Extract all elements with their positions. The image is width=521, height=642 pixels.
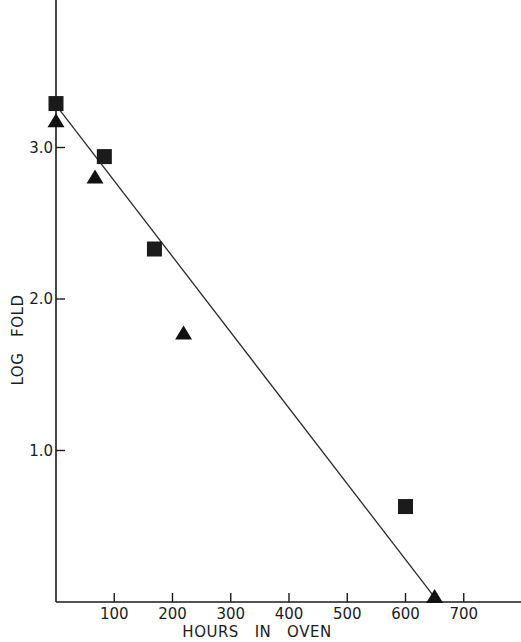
square-marker: [147, 242, 162, 257]
square-marker: [97, 149, 112, 164]
x-tick-label: 200: [158, 605, 187, 623]
square-marker: [49, 96, 64, 111]
triangle-marker: [87, 169, 104, 183]
x-tick-label: 600: [391, 605, 420, 623]
y-tick-label: 1.0: [29, 442, 53, 460]
x-tick-label: 300: [216, 605, 245, 623]
regression-line: [56, 105, 435, 597]
y-axis-title: LOG FOLD: [9, 295, 27, 386]
y-tick-label: 3.0: [29, 139, 53, 157]
x-tick-label: 700: [449, 605, 478, 623]
triangle-marker: [175, 325, 192, 339]
x-axis-ticks: 100200300400500600700: [100, 593, 478, 623]
triangle-marker: [426, 589, 443, 603]
square-marker: [398, 499, 413, 514]
x-tick-label: 100: [100, 605, 129, 623]
y-axis-ticks: 1.02.03.0: [29, 139, 65, 460]
y-tick-label: 2.0: [29, 290, 53, 308]
triangle-marker: [48, 113, 65, 127]
x-tick-label: 500: [333, 605, 362, 623]
x-axis-title: HOURS IN OVEN: [182, 623, 331, 641]
axes: [56, 0, 521, 602]
x-tick-label: 400: [275, 605, 304, 623]
scatter-chart: 100200300400500600700 1.02.03.0 HOURS IN…: [0, 0, 521, 642]
